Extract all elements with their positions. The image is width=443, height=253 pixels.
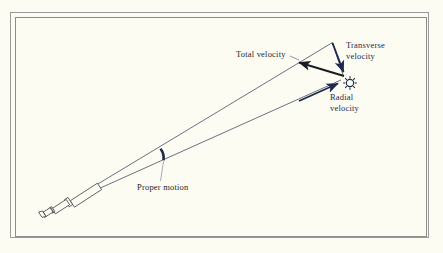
- star-icon: [343, 76, 357, 90]
- figure-container: Total velocity Transverse velocity Radia…: [0, 0, 443, 253]
- label-radial-velocity-line1: Radial: [330, 92, 359, 103]
- lower-sightline: [97, 80, 341, 190]
- transverse-velocity-vector: [333, 43, 344, 72]
- total-velocity-vector: [299, 63, 344, 77]
- label-proper-motion: Proper motion: [137, 182, 188, 193]
- proper-motion-angle-arc: [161, 149, 164, 181]
- label-total-velocity: Total velocity: [236, 49, 286, 60]
- label-transverse-velocity: Transverse velocity: [346, 40, 385, 61]
- label-transverse-velocity-line2: velocity: [346, 51, 385, 62]
- telescope-icon: [39, 183, 102, 217]
- label-radial-velocity-line2: velocity: [330, 103, 359, 114]
- diagram-canvas: [0, 0, 443, 253]
- upper-sightline: [97, 43, 333, 185]
- label-transverse-velocity-line1: Transverse: [346, 40, 385, 51]
- label-radial-velocity: Radial velocity: [330, 92, 359, 113]
- total-velocity-leader: [290, 56, 299, 60]
